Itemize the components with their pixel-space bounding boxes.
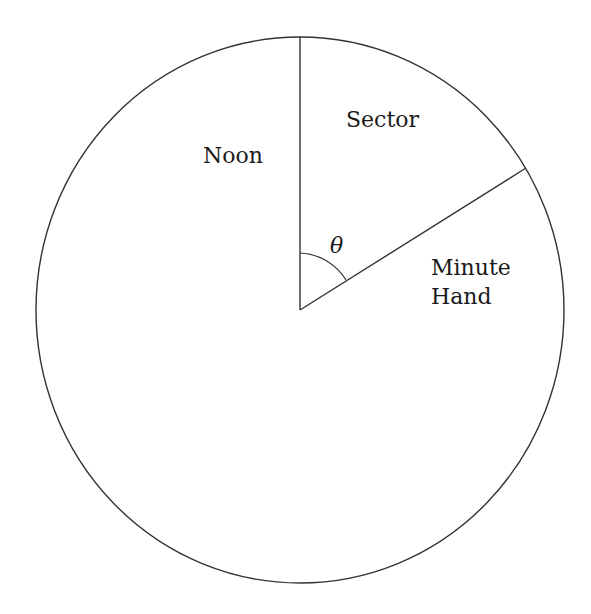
sector-label: Sector (346, 107, 419, 132)
theta-label: θ (330, 233, 343, 258)
clock-diagram: Sector Noon θ Minute Hand (0, 0, 591, 614)
noon-label: Noon (203, 143, 263, 168)
minute-hand-label-line1: Minute (431, 255, 511, 280)
minute-hand-label-line2: Hand (431, 284, 492, 309)
